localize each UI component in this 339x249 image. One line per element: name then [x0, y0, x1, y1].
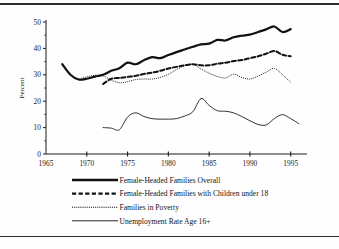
legend-item: Families in Poverty — [72, 203, 179, 212]
legend-label: Female-Headed Families with Children und… — [120, 189, 269, 198]
legend-label: Female-Headed Families Overall — [120, 176, 221, 185]
legend-item: Unemployment Rate Age 16+ — [72, 217, 210, 226]
legend-label: Families in Poverty — [120, 203, 180, 212]
top-divider-rule — [0, 3, 339, 5]
legend-item: Female-Headed Families with Children und… — [72, 189, 268, 198]
chart-legend: Female-Headed Families OverallFemale-Hea… — [0, 8, 339, 234]
legend-item: Female-Headed Families Overall — [72, 176, 220, 185]
bottom-divider-rule — [0, 236, 339, 237]
chart-figure: 010203040501965197019751980198519901995P… — [0, 8, 339, 234]
figure-page: 010203040501965197019751980198519901995P… — [0, 0, 339, 249]
legend-label: Unemployment Rate Age 16+ — [120, 217, 211, 226]
